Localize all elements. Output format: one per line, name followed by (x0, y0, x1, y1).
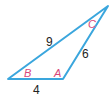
angle-label-a: A (53, 67, 61, 79)
side-label-bc: 9 (46, 35, 53, 49)
triangle-diagram: 9 6 4 B A C (0, 0, 111, 100)
angle-label-c: C (88, 18, 96, 30)
side-label-ab: 4 (33, 83, 40, 97)
side-label-ac: 6 (82, 47, 89, 61)
angle-label-b: B (24, 67, 31, 79)
